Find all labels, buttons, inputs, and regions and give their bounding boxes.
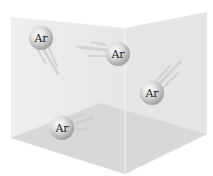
atom-label: Ar (144, 87, 159, 100)
atom-argon: Ar (50, 116, 74, 140)
atom-argon: Ar (140, 81, 164, 105)
atom-label: Ar (54, 122, 69, 135)
gas-container-diagram: Ar Ar Ar Ar (0, 0, 213, 176)
atom-label: Ar (110, 48, 125, 61)
atom-argon: Ar (106, 42, 130, 66)
atom-argon: Ar (29, 26, 53, 50)
atom-label: Ar (33, 32, 48, 45)
